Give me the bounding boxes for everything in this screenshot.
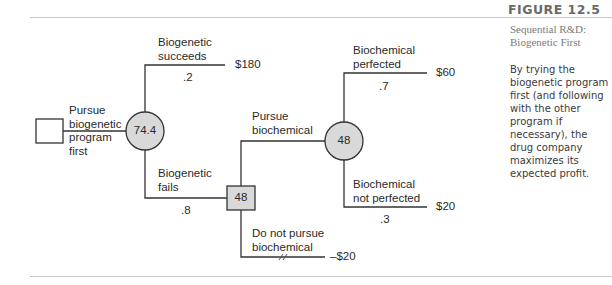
prob-biogenetic-fails: .8 bbox=[181, 204, 191, 216]
branch-label-do-not-pursue: Do not pursue biochemical bbox=[252, 227, 324, 254]
prob-biochemical-not-perfected: .3 bbox=[380, 213, 390, 225]
branch-label-pursue-biochemical: Pursue biochemical bbox=[252, 110, 313, 137]
payoff-do-not-pursue: –$20 bbox=[330, 250, 356, 262]
branch-label-biochemical-perfected: Biochemical perfected bbox=[353, 44, 415, 71]
prob-biochemical-perfected: .7 bbox=[379, 80, 389, 92]
root-decision-node bbox=[36, 119, 63, 143]
chance2-value: 48 bbox=[325, 134, 363, 146]
payoff-biochemical-not-perfected: $20 bbox=[436, 200, 455, 212]
branch-label-biogenetic-fails: Biogenetic fails bbox=[158, 167, 212, 194]
root-label: Pursue biogenetic program first bbox=[69, 104, 121, 158]
chance1-value: 74.4 bbox=[126, 124, 164, 136]
branch-label-biochemical-not-perfected: Biochemical not perfected bbox=[353, 178, 420, 205]
payoff-biogenetic-succeeds: $180 bbox=[235, 58, 261, 70]
prob-biogenetic-succeeds: .2 bbox=[183, 71, 193, 83]
edge-pursue-biochemical bbox=[241, 141, 325, 186]
payoff-biochemical-perfected: $60 bbox=[436, 66, 455, 78]
branch-label-biogenetic-succeeds: Biogenetic succeeds bbox=[158, 36, 212, 63]
decision2-value: 48 bbox=[227, 191, 255, 203]
